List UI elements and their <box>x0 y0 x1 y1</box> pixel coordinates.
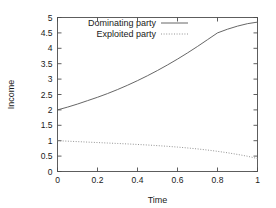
plot-frame <box>58 18 258 172</box>
x-tick-label: 0 <box>55 175 60 185</box>
y-tick-label: 3 <box>48 74 53 84</box>
series-line-exploited-party <box>58 141 258 159</box>
income-vs-time-line-chart: 00.511.522.533.544.55 00.20.40.60.81 Tim… <box>0 0 276 208</box>
y-tick-label: 4.5 <box>41 28 53 38</box>
y-tick-label: 2 <box>48 105 53 115</box>
y-tick-label: 1 <box>48 136 53 146</box>
y-tick-label: 1.5 <box>41 120 53 130</box>
x-tick-label: 1 <box>255 175 260 185</box>
y-tick-label: 5 <box>48 13 53 23</box>
x-axis-title: Time <box>148 195 168 205</box>
chart-container: 00.511.522.533.544.55 00.20.40.60.81 Tim… <box>0 0 276 208</box>
x-tick-label: 0.8 <box>212 175 224 185</box>
y-tick-label: 4 <box>48 43 53 53</box>
y-tick-label: 2.5 <box>41 90 53 100</box>
series-line-dominating-party <box>58 22 258 110</box>
y-tick-label: 0 <box>48 167 53 177</box>
legend-label-dominating-party: Dominating party <box>88 18 157 28</box>
x-tick-label: 0.2 <box>92 175 104 185</box>
data-series-group <box>58 22 258 158</box>
legend: Dominating party Exploited party <box>88 18 188 39</box>
y-axis-title: Income <box>6 80 16 110</box>
y-tick-label: 3.5 <box>41 59 53 69</box>
x-tick-label: 0.4 <box>132 175 144 185</box>
x-tick-label: 0.6 <box>172 175 184 185</box>
y-tick-label: 0.5 <box>41 151 53 161</box>
legend-label-exploited-party: Exploited party <box>96 29 156 39</box>
